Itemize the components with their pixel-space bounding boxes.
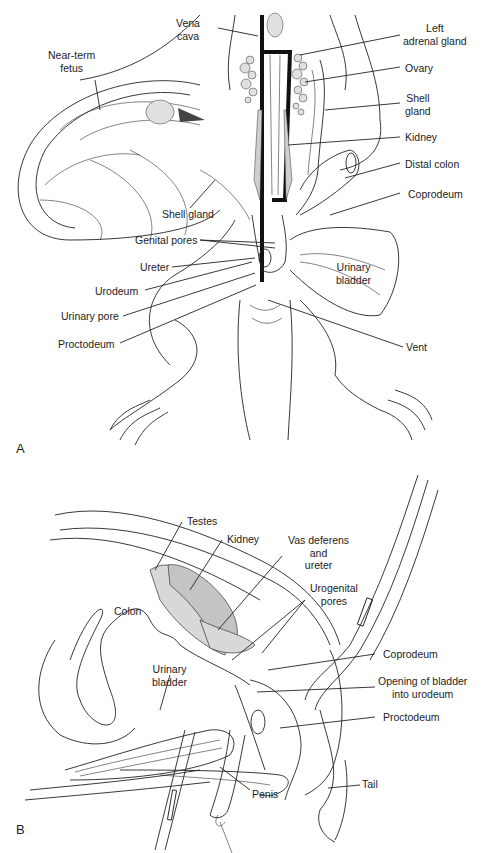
label-line: Vas deferens [288,534,349,547]
label-line: gland [405,105,431,118]
label-vas-deferens-ureter: Vas deferens and ureter [288,534,349,572]
male-reptile-illustration [0,470,485,853]
label-vent: Vent [406,341,427,354]
label-line: Urinary [152,663,187,676]
label-shell-gland-left: Shell gland [162,208,214,221]
label-genital-pores: Genital pores [135,234,197,247]
panel-label-b: B [16,822,25,837]
label-urinary-bladder-b: Urinary bladder [152,663,187,688]
label-line: bladder [152,676,187,689]
label-coprodeum-b: Coprodeum [383,648,438,661]
label-kidney-b: Kidney [227,533,259,546]
label-urodeum: Urodeum [95,285,138,298]
label-penis: Penis [252,788,278,801]
label-line: Vena [176,17,200,30]
label-line: cava [176,30,200,43]
label-vena-cava: Vena cava [176,17,200,42]
label-line: Near-term [48,49,95,62]
label-line: Urogenital [310,582,358,595]
label-line: and [288,547,349,560]
label-line: Left [403,22,467,35]
label-proctodeum-b: Proctodeum [383,711,440,724]
label-colon: Colon [114,605,141,618]
label-kidney-a: Kidney [405,131,437,144]
label-opening-of-bladder: Opening of bladder into urodeum [378,675,467,700]
label-ureter: Ureter [140,261,169,274]
label-line: pores [310,595,358,608]
label-testes: Testes [187,515,217,528]
label-line: ureter [288,559,349,572]
label-left-adrenal-gland: Left adrenal gland [403,22,467,47]
label-urinary-pore: Urinary pore [61,310,119,323]
label-line: fetus [48,62,95,75]
label-distal-colon: Distal colon [405,158,459,171]
panel-label-a: A [16,441,25,456]
label-shell-gland-right: Shell gland [405,92,431,117]
panel-b-male-anatomy: Testes Kidney Vas deferens and ureter Ur… [0,470,485,853]
label-tail: Tail [362,778,378,791]
panel-a-female-anatomy: Vena cava Near-term fetus Left adrenal g… [0,0,485,470]
label-line: Opening of bladder [378,675,467,688]
label-line: adrenal gland [403,35,467,48]
label-urinary-bladder-a: Urinary bladder [336,261,371,286]
label-line: bladder [336,274,371,287]
label-line: Shell [405,92,431,105]
label-line: into urodeum [378,688,467,701]
label-line: Urinary [336,261,371,274]
label-coprodeum-a: Coprodeum [408,188,463,201]
label-urogenital-pores: Urogenital pores [310,582,358,607]
label-proctodeum-a: Proctodeum [58,338,115,351]
label-ovary: Ovary [405,62,433,75]
label-near-term-fetus: Near-term fetus [48,49,95,74]
